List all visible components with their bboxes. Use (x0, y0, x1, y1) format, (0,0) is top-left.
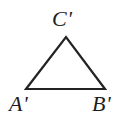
geometry-figure: C' A' B' (0, 0, 124, 129)
vertex-label-c-prime: C' (52, 8, 72, 30)
vertex-label-b-prime: B' (92, 93, 111, 115)
vertex-label-a-prime: A' (9, 93, 28, 115)
triangle-polygon (26, 37, 105, 89)
